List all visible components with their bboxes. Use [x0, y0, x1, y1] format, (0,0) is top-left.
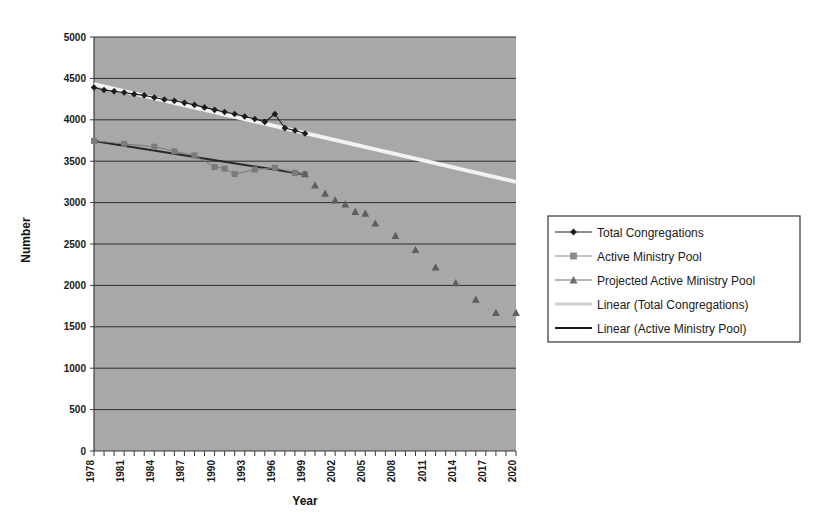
legend-item-label: Linear (Total Congregations) — [597, 298, 748, 312]
y-tick-label: 3500 — [64, 156, 87, 167]
data-point — [272, 165, 278, 171]
x-axis-title: Year — [292, 494, 318, 508]
data-point — [91, 138, 97, 144]
legend-item-label: Total Congregations — [597, 226, 704, 240]
y-tick-label: 0 — [80, 446, 86, 457]
x-tick-label: 2005 — [356, 460, 367, 483]
data-point — [121, 141, 127, 147]
legend-marker-square-icon — [570, 253, 577, 260]
data-point — [212, 164, 218, 170]
chart-legend[interactable]: Total CongregationsActive Ministry PoolP… — [548, 216, 800, 342]
y-tick-label: 2500 — [64, 239, 87, 250]
x-tick-label: 2002 — [326, 460, 337, 483]
x-tick-label: 2020 — [507, 460, 518, 483]
x-tick-label: 2014 — [447, 460, 458, 483]
chart-container: 0500100015002000250030003500400045005000… — [0, 0, 840, 529]
y-tick-label: 3000 — [64, 197, 87, 208]
y-tick-label: 5000 — [64, 32, 87, 43]
x-tick-label: 1987 — [175, 460, 186, 483]
x-tick-label: 1993 — [236, 460, 247, 483]
y-tick-label: 4000 — [64, 114, 87, 125]
y-axis-title: Number — [19, 217, 33, 263]
data-point — [151, 144, 157, 150]
x-tick-label: 1990 — [206, 460, 217, 483]
data-point — [222, 166, 228, 172]
x-tick-label: 1978 — [85, 460, 96, 483]
x-tick-label: 1981 — [115, 460, 126, 483]
x-tick-label: 2011 — [417, 460, 428, 482]
x-tick-label: 1999 — [296, 460, 307, 483]
legend-item-label: Projected Active Ministry Pool — [597, 274, 755, 288]
x-tick-label: 1984 — [145, 460, 156, 483]
y-tick-label: 500 — [69, 404, 86, 415]
data-point — [171, 148, 177, 154]
data-point — [252, 166, 258, 172]
x-tick-label: 2008 — [386, 460, 397, 483]
line-chart: 0500100015002000250030003500400045005000… — [0, 0, 840, 529]
data-point — [292, 170, 298, 176]
y-tick-label: 4500 — [64, 73, 87, 84]
legend-item-label: Active Ministry Pool — [597, 250, 702, 264]
legend-item-label: Linear (Active Ministry Pool) — [597, 322, 746, 336]
y-tick-label: 2000 — [64, 280, 87, 291]
data-point — [191, 152, 197, 158]
y-tick-label: 1000 — [64, 363, 87, 374]
data-point — [232, 171, 238, 177]
x-tick-label: 2017 — [477, 460, 488, 483]
y-tick-label: 1500 — [64, 321, 87, 332]
x-tick-label: 1996 — [266, 460, 277, 483]
